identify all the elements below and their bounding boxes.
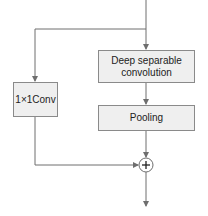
diagram-canvas: Deep separable convolution Pooling 1×1Co… (0, 0, 208, 216)
conv1x1-label: 1×1Conv (15, 94, 55, 106)
pooling-node: Pooling (98, 105, 195, 131)
depthwise-label-line1: Deep separable (111, 55, 182, 67)
conv1x1-node: 1×1Conv (13, 82, 58, 117)
depthwise-conv-node: Deep separable convolution (98, 50, 195, 83)
pooling-label: Pooling (130, 112, 163, 124)
depthwise-label-line2: convolution (111, 67, 182, 79)
